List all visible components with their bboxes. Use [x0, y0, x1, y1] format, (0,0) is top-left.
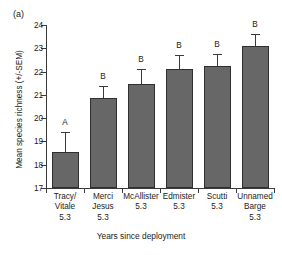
error-bar: [141, 69, 142, 84]
category-label-line: 5.3: [163, 202, 195, 212]
error-bar: [179, 55, 180, 68]
y-axis-line: [46, 25, 47, 188]
error-bar-cap: [251, 34, 260, 35]
error-bar: [217, 54, 218, 66]
y-tick-label: 22: [34, 67, 43, 76]
bar: [90, 98, 117, 188]
y-tick-label: 24: [34, 21, 43, 30]
category-label-line: 5.3: [92, 213, 113, 223]
y-tick-label: 19: [34, 137, 43, 146]
category-label: Scutti5.3: [207, 192, 227, 213]
category-label-line: Jesus: [92, 202, 113, 212]
category-label-line: Unnamed: [237, 192, 273, 202]
category-label: Edmister5.3: [163, 192, 195, 213]
error-bar-cap: [61, 132, 70, 133]
y-tick-label: 23: [34, 44, 43, 53]
category-label: MerciJesus5.3: [92, 192, 113, 223]
significance-letter: A: [62, 118, 67, 127]
category-label-line: 5.3: [123, 202, 158, 212]
y-tick-label: 17: [34, 184, 43, 193]
category-label-line: 5.3: [207, 202, 227, 212]
bar: [242, 46, 269, 188]
bar: [52, 152, 79, 188]
x-axis-title: Years since deployment: [0, 231, 282, 241]
category-label-line: Merci: [92, 192, 113, 202]
bar: [204, 66, 231, 188]
error-bar: [103, 86, 104, 98]
significance-letter: B: [138, 55, 143, 64]
x-tick-mark: [160, 188, 161, 193]
error-bar: [255, 34, 256, 46]
x-tick-mark: [84, 188, 85, 193]
error-bar-cap: [137, 69, 146, 70]
figure-panel-a: (a) Mean species richness (+/-SEM) 17181…: [0, 0, 282, 255]
category-label-line: Scutti: [207, 192, 227, 202]
significance-letter: B: [214, 40, 219, 49]
bar: [166, 69, 193, 188]
category-label-line: Edmister: [163, 192, 195, 202]
category-label: McAllister5.3: [123, 192, 158, 213]
significance-letter: B: [176, 41, 181, 50]
y-axis-title: Mean species richness (+/-SEM): [15, 30, 24, 190]
x-tick-mark: [274, 188, 275, 193]
error-bar-cap: [213, 54, 222, 55]
bar: [128, 84, 155, 188]
category-label-line: Tracy/: [54, 192, 76, 202]
y-tick-label: 21: [34, 90, 43, 99]
significance-letter: B: [100, 72, 105, 81]
category-label-line: McAllister: [123, 192, 158, 202]
category-label: Tracy/Vitale5.3: [54, 192, 76, 223]
category-label-line: 5.3: [237, 213, 273, 223]
plot-area: 1718192021222324 ABBBBB: [46, 25, 274, 188]
category-label-line: Vitale: [54, 202, 76, 212]
y-tick-label: 20: [34, 114, 43, 123]
category-label: UnnamedBarge5.3: [237, 192, 273, 223]
error-bar-cap: [99, 86, 108, 87]
x-tick-mark: [198, 188, 199, 193]
category-label-line: Barge: [237, 202, 273, 212]
y-tick-label: 18: [34, 160, 43, 169]
error-bar: [65, 132, 66, 152]
significance-letter: B: [252, 20, 257, 29]
error-bar-cap: [175, 55, 184, 56]
category-label-line: 5.3: [54, 213, 76, 223]
panel-label: (a): [13, 9, 24, 19]
x-tick-mark: [46, 188, 47, 193]
